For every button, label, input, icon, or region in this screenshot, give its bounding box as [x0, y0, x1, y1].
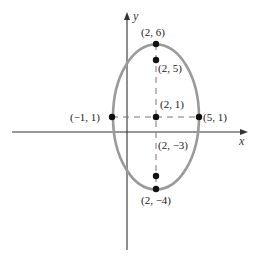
y-axis-label: y: [132, 9, 139, 23]
point-upper-focus: (2, 5): [153, 57, 182, 75]
x-axis-label: x: [238, 134, 245, 148]
label-center: (2, 1): [160, 98, 184, 111]
point-bottom-vertex: (2, −4): [141, 186, 171, 207]
x-axis: x: [12, 129, 248, 148]
label-upper-focus: (2, 5): [158, 62, 182, 75]
label-bottom-vertex: (2, −4): [141, 194, 171, 207]
ellipse-diagram: x y (2, 6) (2, 5) (2, 1) (−1, 1) (5, 1) …: [0, 0, 263, 256]
y-axis-arrow-icon: [124, 12, 130, 20]
point-left-covertex: (−1, 1): [70, 111, 115, 124]
label-lower-focus: (2, −3): [158, 139, 188, 152]
point-right-covertex: (5, 1): [196, 111, 227, 124]
y-axis: y: [124, 9, 139, 250]
label-left-covertex: (−1, 1): [70, 111, 100, 124]
label-right-covertex: (5, 1): [203, 111, 227, 124]
label-top-vertex: (2, 6): [141, 26, 165, 39]
